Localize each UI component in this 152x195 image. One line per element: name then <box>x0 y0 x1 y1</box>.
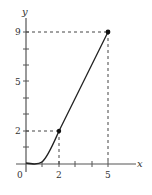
y-axis-label: y <box>21 6 28 17</box>
function-graph: y x 9 5 2 0 2 5 <box>0 0 152 195</box>
y-tick-label-5: 5 <box>15 77 21 87</box>
x-tick-label-5: 5 <box>105 170 111 180</box>
y-tick-label-9: 9 <box>15 27 21 37</box>
point-2-2 <box>57 129 61 133</box>
y-tick-label-2: 2 <box>15 126 21 136</box>
point-5-9 <box>106 30 111 35</box>
origin-label: 0 <box>17 170 23 180</box>
x-axis-label: x <box>137 158 143 169</box>
guide-lines <box>26 32 108 164</box>
x-tick-label-2: 2 <box>56 170 62 180</box>
function-curve <box>26 32 108 164</box>
